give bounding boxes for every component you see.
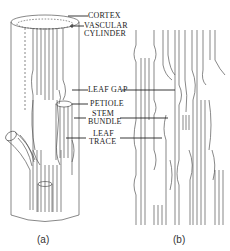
label-vascular-cylinder-2: CYLINDER (84, 30, 126, 38)
label-stem-bundle-2: BUNDLE (88, 118, 122, 126)
label-petiole: PETIOLE (90, 100, 124, 108)
stem-vascular-diagram: CORTEX VASCULAR CYLINDER LEAF GAP PETIOL… (0, 0, 230, 251)
unrolled-vascular-b (134, 30, 225, 225)
stem-cylinder-a (4, 15, 79, 222)
label-cortex: CORTEX (88, 12, 121, 20)
label-leaf-gap: LEAF GAP (88, 86, 128, 94)
label-leaf-trace-2: TRACE (89, 138, 116, 146)
caption-a: (a) (37, 234, 49, 245)
caption-b: (b) (173, 234, 185, 245)
